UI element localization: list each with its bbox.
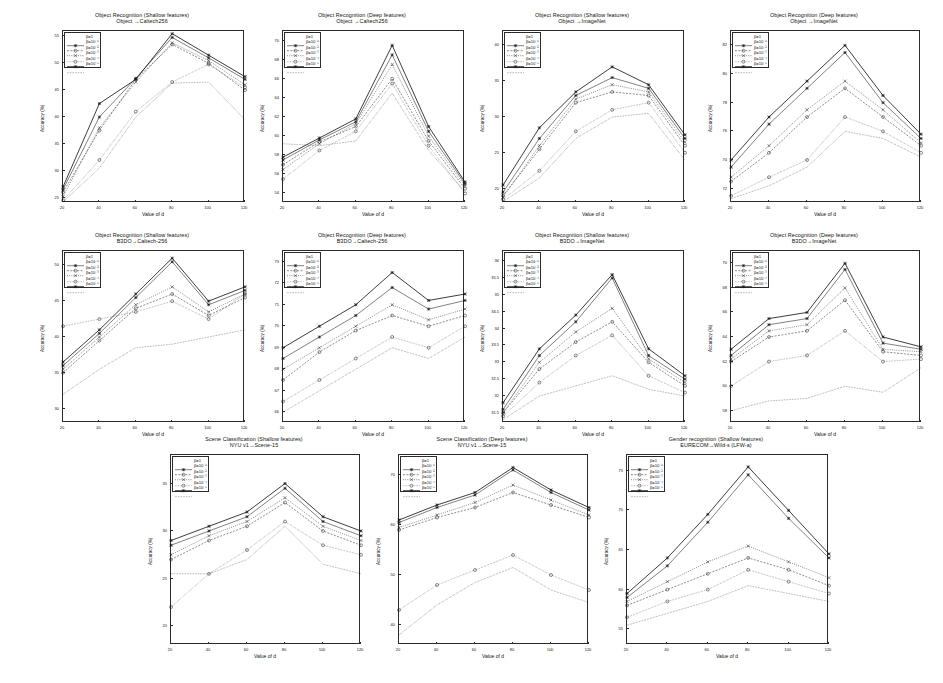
series-line [171,503,361,560]
series-line [731,53,921,168]
x-axis-tick-mark [474,642,475,645]
data-point-marker [464,192,467,195]
y-axis-tick-label: 36 [472,258,499,263]
y-axis-tick-mark [282,116,285,117]
data-point-marker [360,534,363,537]
y-axis-tick-label: 70 [700,260,727,265]
x-axis-tick-label: 80 [389,425,393,430]
chart-title-block: Object Recognition (Shallow features)B3D… [472,232,692,244]
y-axis-tick-mark [62,143,65,144]
data-point-marker [208,530,211,533]
legend-symbol [630,485,649,490]
y-axis-tick-label: 73 [252,258,279,263]
chart-legend[interactable]: β=1β=10⁻¹β=10⁻²β=10⁻³β=10⁻⁴β=10⁻⁵ [284,32,321,68]
chart-legend[interactable]: β=1β=10⁻¹β=10⁻²β=10⁻³β=10⁻⁴β=10⁻⁵ [284,252,321,288]
x-axis-tick-mark [575,200,576,203]
legend-line-sample [506,290,525,295]
series-line [503,85,685,198]
chart-panel-p6: Object Recognition (Deep features)B3DO→C… [252,232,472,454]
legend-item[interactable]: β=10⁻⁵ [286,61,319,66]
y-axis-tick-mark [626,509,629,510]
data-point-marker [768,116,771,119]
x-axis-tick-mark [318,420,319,423]
chart-legend[interactable]: β=1β=10⁻¹β=10⁻²β=10⁻³β=10⁻⁴β=10⁻⁵ [732,252,769,288]
legend-item[interactable]: β=10⁻⁵ [286,281,319,286]
data-point-marker [611,108,614,111]
chart-legend[interactable]: β=1β=10⁻¹β=10⁻²β=10⁻³β=10⁻⁴β=10⁻⁵ [504,32,541,68]
y-axis-label: Accuracy (%) [40,325,45,352]
chart-title-block: Object Recognition (Deep features)Object… [252,12,472,24]
x-axis-tick-label: 80 [609,425,613,430]
x-axis-tick-mark [512,642,513,645]
data-point-marker [246,520,249,523]
x-axis-tick-label: 80 [745,647,749,652]
data-point-marker [427,318,430,321]
legend-item[interactable]: β=10⁻⁵ [174,485,207,490]
legend-item[interactable]: β=10⁻⁵ [66,61,99,66]
y-axis-tick-label: 32 [472,393,499,398]
data-point-marker [282,168,285,171]
y-axis-tick-label: 30 [32,405,59,410]
series-3 [730,286,923,360]
y-axis-tick-label: 35 [472,291,499,296]
chart-legend[interactable]: β=1β=10⁻¹β=10⁻²β=10⁻³β=10⁻⁴β=10⁻⁵ [400,456,437,492]
data-point-marker [62,361,65,364]
series-line [627,558,829,606]
y-axis-tick-mark [62,300,65,301]
legend-item[interactable]: β=10⁻⁵ [66,281,99,286]
chart-subtitle: Object →ImageNet [472,18,692,24]
legend-item[interactable]: β=10⁻⁵ [506,281,539,286]
legend-item[interactable]: β=10⁻⁵ [734,281,767,286]
chart-legend[interactable]: β=1β=10⁻¹β=10⁻²β=10⁻³β=10⁻⁴β=10⁻⁵ [172,456,209,492]
legend-item[interactable]: β=10⁻⁵ [630,485,663,490]
y-axis-tick-mark [730,311,733,312]
data-point-marker [244,285,247,288]
x-axis-tick-mark [550,642,551,645]
x-axis-tick-label: 100 [424,205,431,210]
legend-item[interactable]: β=10⁻⁵ [734,61,767,66]
series-1 [282,53,467,185]
series-line [503,278,685,410]
x-axis-tick-label: 100 [204,205,211,210]
y-axis-label: Accuracy (%) [376,538,381,565]
series-1 [502,276,687,411]
series-3 [282,303,467,371]
data-point-marker [512,484,515,487]
data-point-marker [611,307,614,310]
data-point-marker [134,307,137,310]
series-line [283,55,465,184]
legend-item[interactable]: β=10⁻⁵ [506,61,539,66]
y-axis-label: Accuracy (%) [148,538,153,565]
data-point-marker [98,159,101,162]
chart-subtitle: EURECOM→Wild-s (LFW-a) [596,442,836,448]
x-axis-label: Value of d [398,653,588,659]
y-axis-tick-mark [62,116,65,117]
chart-legend[interactable]: β=1β=10⁻¹β=10⁻²β=10⁻³β=10⁻⁴β=10⁻⁵ [504,252,541,288]
data-point-marker [427,299,430,302]
y-axis-tick-label: 69 [252,344,279,349]
chart-legend[interactable]: β=1β=10⁻¹β=10⁻²β=10⁻³β=10⁻⁴β=10⁻⁵ [64,252,101,288]
chart-legend[interactable]: β=1β=10⁻¹β=10⁻²β=10⁻³β=10⁻⁴β=10⁻⁵ [628,456,665,492]
x-axis-tick-label: 20 [500,205,504,210]
y-axis-tick-mark [62,336,65,337]
chart-legend[interactable]: β=1β=10⁻¹β=10⁻²β=10⁻³β=10⁻⁴β=10⁻⁵ [64,32,101,68]
x-axis-tick-mark [502,200,503,203]
data-point-marker [391,271,394,274]
x-axis-tick-mark [391,420,392,423]
data-point-marker [246,515,249,518]
data-point-marker [207,54,210,57]
chart-panel-p11: Gender recognition (Shallow features)EUR… [596,436,836,676]
y-axis-tick-mark [730,159,733,160]
legend-item[interactable]: β=10⁻⁵ [402,485,435,490]
chart-legend[interactable]: β=1β=10⁻¹β=10⁻²β=10⁻³β=10⁻⁴β=10⁻⁵ [732,32,769,68]
series-line [731,81,921,177]
y-axis-tick-label: 25 [32,194,59,199]
y-axis-tick-mark [502,152,505,153]
x-axis-tick-mark [244,200,245,203]
data-point-marker [134,110,137,113]
legend-line-sample [506,70,525,75]
chart-subtitle: B3DO→Caltech-256 [32,238,252,244]
y-axis-tick-mark [502,412,505,413]
data-point-marker [626,600,629,603]
chart-subtitle: Object →Caltech256 [32,18,252,24]
